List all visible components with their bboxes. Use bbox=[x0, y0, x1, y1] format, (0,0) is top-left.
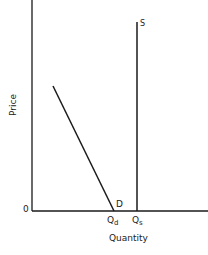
y-axis-label: Price bbox=[9, 94, 18, 116]
quantity-supplied-tick-label: Qs bbox=[132, 216, 143, 225]
quantity-demanded-tick-label: Qd bbox=[107, 216, 119, 225]
qd-subscript: d bbox=[114, 219, 118, 227]
supply-curve-label: S bbox=[140, 20, 145, 28]
origin-label: 0 bbox=[23, 205, 29, 214]
supply-demand-diagram bbox=[0, 0, 208, 255]
demand-curve bbox=[53, 86, 114, 211]
demand-curve-label: D bbox=[116, 200, 123, 209]
qs-subscript: s bbox=[139, 219, 143, 227]
x-axis-label: Quantity bbox=[109, 234, 148, 243]
